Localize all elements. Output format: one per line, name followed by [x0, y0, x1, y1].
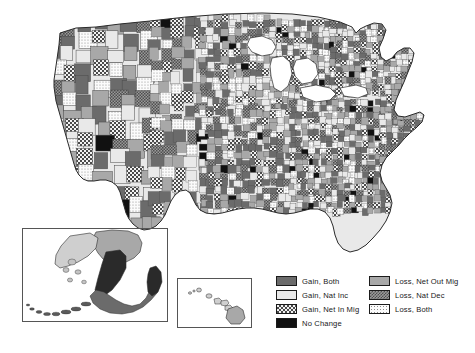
- county-polygon: [294, 27, 299, 32]
- county-polygon: [235, 36, 242, 42]
- legend-label-no-change: No Change: [302, 319, 342, 328]
- county-polygon: [373, 123, 379, 128]
- county-polygon: [375, 190, 380, 196]
- legend-label-gain-both: Gain, Both: [302, 277, 339, 286]
- county-polygon: [377, 77, 383, 83]
- county-polygon: [214, 83, 221, 90]
- county-polygon: [250, 76, 256, 84]
- county-polygon: [207, 21, 213, 28]
- county-polygon: [199, 159, 205, 166]
- county-polygon: [201, 21, 208, 27]
- county-polygon: [199, 130, 205, 137]
- county-polygon: [222, 178, 228, 185]
- county-polygon: [296, 195, 303, 200]
- county-polygon: [369, 155, 375, 160]
- legend-swatch-gain-net-in-mig: [276, 304, 297, 314]
- county-polygon: [256, 167, 263, 173]
- county-polygon: [342, 65, 348, 72]
- legend-label-loss-both: Loss, Both: [395, 305, 432, 314]
- county-polygon: [221, 50, 228, 57]
- county-polygon: [301, 154, 307, 160]
- county-polygon: [206, 152, 215, 159]
- county-polygon: [250, 110, 257, 117]
- county-polygon: [200, 179, 206, 187]
- county-polygon: [372, 85, 379, 90]
- county-polygon: [235, 117, 241, 123]
- legend-item-gain-net-in-mig[interactable]: Gain, Net In Mig: [276, 303, 368, 315]
- county-polygon: [290, 153, 295, 160]
- county-polygon: [214, 193, 220, 200]
- county-polygon: [385, 77, 391, 84]
- county-polygon: [215, 151, 222, 158]
- county-polygon: [199, 27, 205, 34]
- county-polygon: [76, 50, 92, 63]
- county-polygon: [186, 171, 197, 182]
- county-polygon: [362, 130, 368, 136]
- legend-item-gain-both[interactable]: Gain, Both: [276, 275, 368, 287]
- county-polygon: [182, 36, 192, 48]
- county-polygon: [262, 69, 269, 76]
- county-polygon: [183, 69, 193, 82]
- county-polygon: [221, 56, 228, 64]
- county-polygon: [160, 191, 171, 202]
- county-polygon: [320, 167, 326, 173]
- county-polygon: [208, 62, 215, 69]
- county-polygon: [199, 144, 208, 150]
- county-polygon: [337, 29, 342, 34]
- county-polygon: [337, 195, 344, 201]
- legend-item-loss-nat-dec[interactable]: Loss, Nat Dec: [369, 289, 475, 301]
- county-polygon: [335, 72, 342, 78]
- legend-item-loss-both[interactable]: Loss, Both: [369, 303, 475, 315]
- county-polygon: [206, 125, 213, 131]
- county-polygon: [172, 179, 182, 192]
- county-polygon: [220, 76, 228, 84]
- county-polygon: [372, 30, 377, 36]
- county-polygon: [373, 42, 379, 49]
- county-polygon: [295, 153, 301, 159]
- county-polygon: [326, 136, 333, 143]
- county-polygon: [374, 195, 381, 201]
- county-polygon: [348, 42, 354, 47]
- county-polygon: [284, 186, 290, 193]
- county-polygon: [279, 193, 287, 202]
- county-polygon: [151, 177, 163, 188]
- county-polygon: [188, 181, 198, 193]
- county-polygon: [199, 42, 206, 48]
- legend-item-gain-nat-inc[interactable]: Gain, Nat Inc: [276, 289, 368, 301]
- county-polygon: [241, 139, 247, 145]
- county-polygon: [369, 148, 374, 154]
- county-polygon: [331, 171, 337, 176]
- county-polygon: [207, 165, 213, 173]
- county-polygon: [235, 153, 243, 159]
- county-polygon: [312, 26, 319, 33]
- county-polygon: [366, 42, 373, 47]
- legend-item-loss-net-out-mig[interactable]: Loss, Net Out Mig: [369, 275, 475, 287]
- county-polygon: [398, 121, 404, 126]
- county-polygon: [324, 55, 330, 62]
- county-polygon: [312, 20, 318, 26]
- county-polygon: [270, 137, 278, 145]
- county-polygon: [331, 47, 337, 52]
- county-polygon: [356, 105, 361, 112]
- county-polygon: [329, 66, 335, 72]
- county-polygon: [163, 145, 177, 155]
- county-polygon: [250, 158, 256, 165]
- legend-item-no-change[interactable]: No Change: [276, 317, 368, 329]
- county-polygon: [337, 41, 342, 47]
- alaska-inset-frame: [22, 228, 168, 322]
- county-polygon: [199, 62, 206, 68]
- county-polygon: [60, 46, 73, 61]
- county-polygon: [269, 27, 276, 32]
- county-polygon: [330, 59, 335, 66]
- county-polygon: [308, 183, 313, 188]
- county-polygon: [329, 29, 336, 34]
- county-polygon: [275, 92, 282, 98]
- county-polygon: [290, 161, 295, 166]
- county-polygon: [206, 110, 212, 117]
- county-polygon: [371, 59, 378, 64]
- hawaii-inset-frame: [177, 278, 252, 328]
- county-polygon: [270, 193, 277, 200]
- county-polygon: [356, 147, 361, 152]
- county-polygon: [206, 72, 214, 78]
- county-polygon: [361, 147, 367, 153]
